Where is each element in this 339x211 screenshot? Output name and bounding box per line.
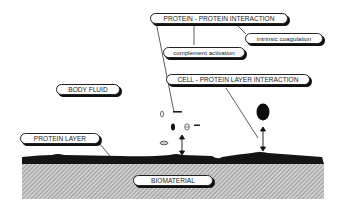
protein-molecule-dash-2	[194, 125, 200, 127]
leader-line-intrinsic	[236, 24, 246, 34]
label-biomaterial: BIOMATERIAL	[133, 175, 213, 186]
label-intrinsic-coagulation: intrinsic coagulation	[245, 33, 323, 44]
protein-layer-band	[22, 152, 324, 164]
cell-adhesion-arrow-icon	[261, 127, 266, 151]
leader-line-cell	[226, 88, 258, 138]
protein-molecule-dash-1	[173, 111, 182, 113]
leader-line-protein-interaction	[156, 22, 174, 112]
label-body-fluid: BODY FLUID	[56, 84, 120, 95]
adsorption-arrow-icon	[180, 135, 185, 155]
label-complement-activation: complement activation	[163, 47, 245, 58]
label-protein-layer: PROTEIN LAYER	[20, 133, 100, 144]
protein-molecule-outline-1	[161, 111, 164, 117]
cell-icon	[257, 104, 270, 121]
label-cell-protein-layer-interaction: CELL - PROTEIN LAYER INTERACTION	[166, 74, 310, 85]
label-protein-protein-interaction: PROTEIN - PROTEIN INTERACTION	[150, 13, 288, 24]
leader-line-protein-layer	[100, 144, 110, 156]
protein-molecule-filled	[171, 123, 175, 130]
